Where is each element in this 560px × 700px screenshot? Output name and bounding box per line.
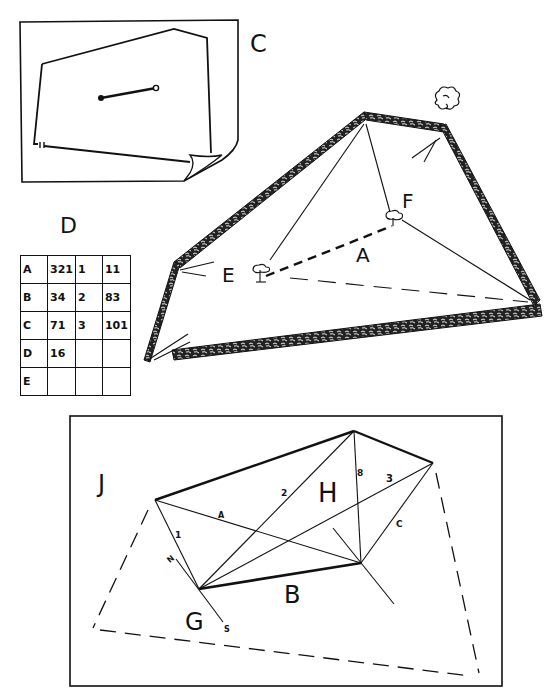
panel-d-label: D xyxy=(60,213,77,238)
row-key: D xyxy=(21,340,48,368)
label-j: J xyxy=(96,470,105,498)
cell: 11 xyxy=(102,256,130,284)
tally-table: A 321 1 11 B 34 2 83 C 71 3 101 D 16 E xyxy=(20,255,131,396)
label-south: S xyxy=(224,625,230,634)
cell: 101 xyxy=(102,312,130,340)
field-sketch-drawing: E F A xyxy=(130,80,560,380)
table-row: B 34 2 83 xyxy=(21,284,131,312)
cell xyxy=(75,340,102,368)
label-e: E xyxy=(222,263,235,287)
surveyed-polygon xyxy=(155,431,433,589)
table-row: A 321 1 11 xyxy=(21,256,131,284)
survey-plan-drawing: J H G B A C 1 2 3 8 N S xyxy=(60,410,510,700)
label-line-3: 3 xyxy=(386,473,393,484)
hedge-boundaries xyxy=(144,112,542,362)
cell: 34 xyxy=(48,284,76,312)
label-line-1: 1 xyxy=(175,530,181,540)
cell xyxy=(102,368,130,396)
label-north: N xyxy=(165,554,176,565)
cell: 1 xyxy=(75,256,102,284)
label-line-a: A xyxy=(218,511,225,520)
tree-icon xyxy=(435,87,459,109)
cell xyxy=(48,368,76,396)
label-line-c: C xyxy=(396,519,403,529)
cell: 2 xyxy=(75,284,102,312)
cell: 3 xyxy=(75,312,102,340)
label-line-8: 8 xyxy=(357,468,363,478)
table-row: E xyxy=(21,368,131,396)
cell: 321 xyxy=(48,256,76,284)
line-a xyxy=(266,226,392,276)
row-key: A xyxy=(21,256,48,284)
survey-plan: J H G B A C 1 2 3 8 N S xyxy=(60,410,510,700)
table-row: D 16 xyxy=(21,340,131,368)
label-b: B xyxy=(284,581,300,609)
marker-e-icon xyxy=(253,264,270,282)
field-sketch: E F A xyxy=(130,80,560,380)
label-line-2: 2 xyxy=(281,488,287,498)
label-a: A xyxy=(356,243,370,267)
panel-c-label: C xyxy=(250,30,267,58)
row-key: E xyxy=(21,368,48,396)
plan-frame xyxy=(70,416,502,686)
cell: 71 xyxy=(48,312,76,340)
cell: 83 xyxy=(102,284,130,312)
row-key: B xyxy=(21,284,48,312)
cell xyxy=(75,368,102,396)
label-g: G xyxy=(185,608,204,636)
table-row: C 71 3 101 xyxy=(21,312,131,340)
label-h: H xyxy=(318,478,338,508)
label-f: F xyxy=(402,189,414,213)
row-key: C xyxy=(21,312,48,340)
cell: 16 xyxy=(48,340,76,368)
cell xyxy=(102,340,130,368)
marker-f-icon xyxy=(386,210,403,226)
